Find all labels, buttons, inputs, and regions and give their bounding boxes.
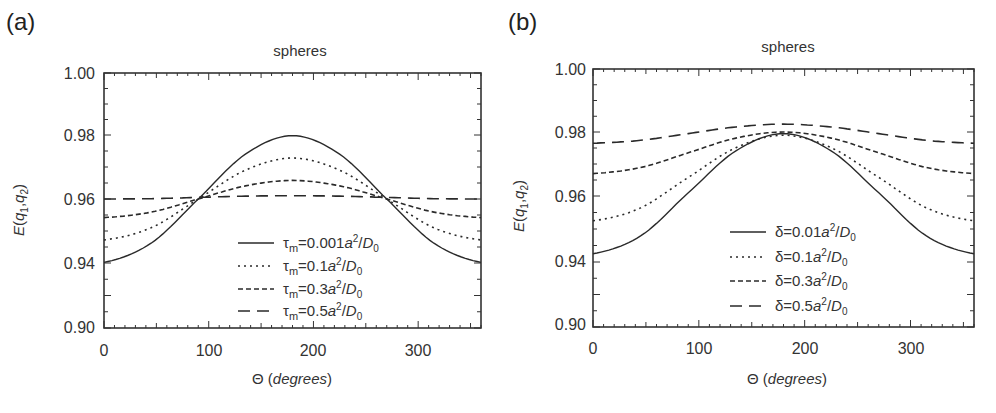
y-tick-b: 0.96 bbox=[536, 188, 586, 206]
y-tick-b: 1.00 bbox=[536, 61, 586, 79]
legend-item: δ=0.5a2/D0 bbox=[775, 296, 847, 317]
series-line-long-dash bbox=[104, 196, 481, 199]
x-tick-a: 100 bbox=[196, 342, 223, 360]
panel-label-a: (a) bbox=[6, 8, 35, 36]
chart-panel-b: (b) spheres E(q1,q2) 1.00 0.98 0.96 0.94… bbox=[496, 0, 996, 413]
x-tick-b: 200 bbox=[792, 340, 819, 358]
y-tick-a: 0.98 bbox=[45, 127, 95, 145]
x-tick-b: 0 bbox=[589, 340, 598, 358]
legend-item: τm=0.1a2/D0 bbox=[283, 256, 362, 277]
chart-title-a: spheres bbox=[273, 42, 326, 59]
chart-panel-a: (a) spheres E(q1,q2) 1.00 0.98 0.96 0.94… bbox=[0, 0, 496, 413]
series-line-short-dash bbox=[104, 180, 481, 217]
y-tick-a: 0.94 bbox=[45, 255, 95, 273]
series-line-short-dash bbox=[593, 132, 974, 174]
panel-label-b: (b) bbox=[508, 8, 537, 36]
y-tick-a: 1.00 bbox=[45, 65, 95, 83]
x-tick-b: 300 bbox=[898, 340, 925, 358]
x-tick-a: 300 bbox=[405, 342, 432, 360]
y-tick-a: 0.96 bbox=[45, 191, 95, 209]
y-axis-label-a: E(q1,q2) bbox=[10, 184, 30, 236]
y-tick-b: 0.90 bbox=[536, 316, 586, 334]
y-tick-a: 0.90 bbox=[45, 319, 95, 337]
legend-item: τm=0.5a2/D0 bbox=[283, 301, 362, 322]
x-axis-label-b: Θ (degrees) bbox=[747, 370, 827, 387]
y-tick-b: 0.98 bbox=[536, 124, 586, 142]
series-line-dotted bbox=[593, 135, 974, 221]
x-tick-a: 0 bbox=[100, 342, 109, 360]
legend-item: τm=0.3a2/D0 bbox=[283, 279, 362, 300]
x-tick-a: 200 bbox=[300, 342, 327, 360]
series-line-dotted bbox=[104, 158, 481, 240]
x-tick-b: 100 bbox=[686, 340, 713, 358]
chart-title-b: spheres bbox=[761, 38, 814, 55]
legend-item: δ=0.3a2/D0 bbox=[775, 271, 847, 292]
legend-item: δ=0.01a2/D0 bbox=[775, 222, 856, 243]
y-tick-b: 0.94 bbox=[536, 253, 586, 271]
y-axis-label-b: E(q1,q2) bbox=[510, 180, 530, 232]
legend-item: δ=0.1a2/D0 bbox=[775, 247, 847, 268]
legend-item: τm=0.001a2/D0 bbox=[283, 233, 379, 254]
x-axis-label-a: Θ (degrees) bbox=[252, 370, 332, 387]
